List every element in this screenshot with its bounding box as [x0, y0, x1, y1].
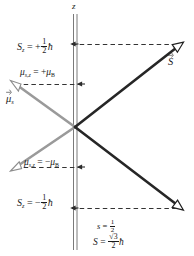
symbol-s-quantum: s	[97, 221, 100, 231]
relation-quantum: =	[102, 221, 107, 231]
symbol-S-magnitude: S	[93, 237, 98, 247]
spin-vector-label: S	[168, 57, 173, 68]
sign-upper-spin: +	[35, 41, 41, 52]
bohr-subscript-upper: B	[51, 72, 55, 78]
moment-vector-label: μs	[6, 94, 14, 105]
relation-lower-moment: =	[37, 157, 42, 167]
moment-lower-arrowhead	[11, 162, 22, 171]
fraction-half-lower: 12	[41, 194, 47, 212]
fraction-sqrt3-over-2: √32	[108, 233, 118, 250]
subscript-z-lower: z	[22, 202, 24, 209]
subscript-sz-upper: s,z	[25, 72, 31, 78]
subscript-s-moment-vector: s	[11, 98, 14, 105]
moment-vector-upper	[11, 81, 76, 128]
z-axis-label: z	[72, 2, 76, 11]
label-moment-z-positive: μs,z = +μB	[20, 68, 55, 79]
subscript-z-upper: z	[22, 46, 24, 53]
label-spin-z-positive: Sz = +12ħ	[17, 38, 53, 56]
z-axis	[74, 14, 78, 250]
vector-accent-S: S	[168, 57, 173, 68]
spin-vector-model-figure: z Sz = +12ħ μs,z = +μB μs,z = −μB Sz = −…	[0, 0, 194, 256]
fraction-half-upper: 12	[41, 38, 47, 56]
moment-upper-arrowhead	[11, 81, 22, 92]
hbar-magnitude: ħ	[119, 237, 124, 247]
equation-spin-magnitude: S = √32ħ	[93, 233, 124, 250]
label-moment-z-negative: μs,z = −μB	[24, 158, 59, 169]
spin-vector-lower	[75, 127, 184, 210]
subscript-sz-lower: s,z	[29, 162, 35, 168]
hbar-upper: ħ	[48, 41, 53, 52]
bohr-subscript-lower: B	[55, 162, 59, 168]
label-spin-z-negative: Sz = −12ħ	[17, 194, 53, 212]
spin-vector-upper	[75, 42, 184, 127]
relation-upper-spin: =	[27, 41, 33, 52]
sign-lower-spin: −	[35, 197, 41, 208]
relation-upper-moment: =	[33, 67, 38, 77]
relation-lower-spin: =	[27, 197, 33, 208]
relation-magnitude: =	[100, 237, 105, 247]
hbar-lower: ħ	[48, 197, 53, 208]
vector-accent-mu: μ	[6, 94, 11, 105]
